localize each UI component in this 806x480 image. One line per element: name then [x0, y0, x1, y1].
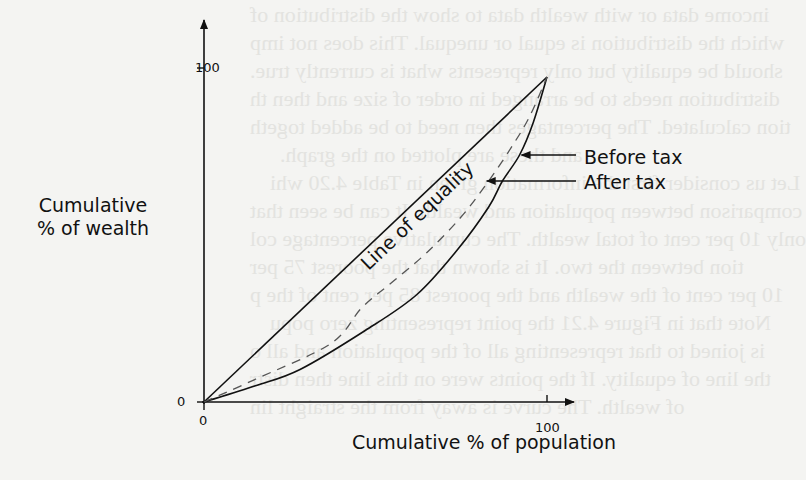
y-axis-title-line-2: % of wealth	[18, 217, 168, 240]
y-axis-title-line-1: Cumulative	[18, 194, 168, 217]
x-axis-title: Cumulative % of population	[352, 431, 616, 454]
before-tax-label: Before tax	[584, 146, 683, 168]
y-axis-tick-label-100: 100	[195, 60, 220, 75]
y-axis-title: Cumulative % of wealth	[18, 194, 168, 240]
after-tax-label: After tax	[584, 171, 666, 193]
x-axis-tick-label-0: 0	[199, 413, 207, 428]
y-axis-tick-label-0: 0	[177, 394, 185, 409]
